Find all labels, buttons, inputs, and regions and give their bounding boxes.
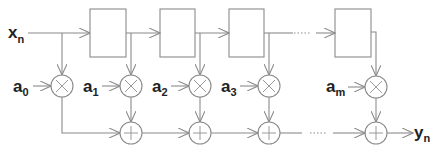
- svg-text:yn: yn: [414, 123, 430, 144]
- svg-text:a2: a2: [152, 77, 168, 98]
- coef-label-m: am: [326, 77, 345, 98]
- svg-text:am: am: [326, 77, 345, 98]
- delay-block-m: [335, 9, 371, 57]
- adder-1: [120, 122, 142, 144]
- multiplier-3: [258, 75, 280, 97]
- svg-text:a1: a1: [83, 77, 99, 98]
- multiplier-2: [189, 75, 211, 97]
- multiplier-0: [51, 75, 73, 97]
- multiplier-1: [120, 75, 142, 97]
- coef-label-2: a2: [152, 77, 168, 98]
- fir-filter-diagram: xn a0 a1 a2 a3 am: [0, 0, 441, 152]
- delay-block-3: [229, 9, 264, 57]
- adder-m: [365, 122, 387, 144]
- coef-label-1: a1: [83, 77, 99, 98]
- multiplier-m: [365, 76, 387, 98]
- coef-label-0: a0: [13, 77, 29, 98]
- delay-block-2: [160, 9, 195, 57]
- mult-0-out-wire: [62, 97, 120, 133]
- tap-m-wire: [371, 32, 376, 76]
- svg-text:a0: a0: [13, 77, 29, 98]
- delay-block-1: [90, 9, 126, 57]
- svg-text:a3: a3: [221, 77, 237, 98]
- input-label: xn: [8, 23, 24, 45]
- coef-label-3: a3: [221, 77, 237, 98]
- svg-text:xn: xn: [8, 23, 24, 45]
- adder-3: [258, 122, 280, 144]
- adder-2: [189, 122, 211, 144]
- output-label: yn: [414, 123, 430, 144]
